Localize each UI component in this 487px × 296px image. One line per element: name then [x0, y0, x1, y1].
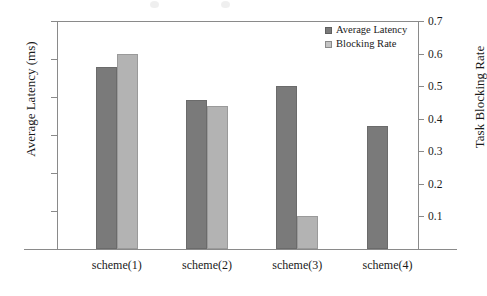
- right-tick-label: 0.5: [428, 81, 474, 91]
- bars-layer: [57, 21, 418, 249]
- legend-label: Blocking Rate: [336, 38, 396, 50]
- bar-blocking-rate: [207, 106, 228, 249]
- right-tick-mark: [418, 21, 424, 22]
- right-tick-mark: [418, 151, 424, 152]
- bar-average-latency: [367, 126, 388, 250]
- scan-artifact: [150, 1, 159, 8]
- right-tick-label: 0.7: [428, 16, 474, 26]
- legend-swatch-icon: [325, 41, 332, 48]
- x-axis-tick-label: scheme(4): [333, 258, 443, 272]
- legend-item-blocking-rate: Blocking Rate: [325, 38, 407, 50]
- right-tick-mark: [418, 54, 424, 55]
- legend-swatch-icon: [325, 27, 332, 34]
- bar-blocking-rate: [117, 54, 138, 249]
- left-axis-title: Average Latency (ms): [24, 4, 38, 194]
- legend-label: Average Latency: [336, 24, 407, 36]
- bar-average-latency: [186, 100, 207, 249]
- right-tick-mark: [418, 184, 424, 185]
- scan-artifact: [221, 1, 230, 8]
- right-tick-label: 0.4: [428, 114, 474, 124]
- right-tick-label: 0.2: [428, 179, 474, 189]
- legend-item-average-latency: Average Latency: [325, 24, 407, 36]
- right-tick-label: 0.1: [428, 211, 474, 221]
- right-tick-mark: [418, 119, 424, 120]
- right-tick-label: 0.3: [428, 146, 474, 156]
- right-tick-mark: [418, 86, 424, 87]
- right-tick-mark: [418, 216, 424, 217]
- bar-blocking-rate: [297, 216, 318, 249]
- chart-legend: Average Latency Blocking Rate: [325, 24, 407, 52]
- right-axis-title: Task Blocking Rate: [473, 2, 487, 192]
- bar-average-latency: [96, 67, 117, 249]
- right-tick-label: 0.6: [428, 49, 474, 59]
- bar-average-latency: [276, 86, 297, 249]
- x-axis-line: [24, 249, 457, 250]
